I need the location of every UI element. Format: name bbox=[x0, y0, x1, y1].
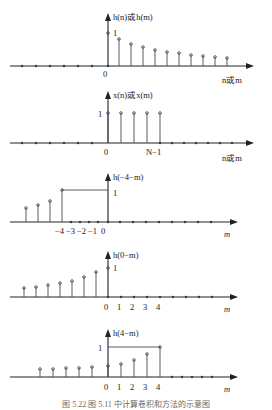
x-axis-arrowhead bbox=[246, 140, 254, 146]
tick-label-0: 0 bbox=[103, 69, 107, 79]
tick-label-0: 0 bbox=[104, 382, 108, 392]
y-axis-arrowhead bbox=[105, 329, 111, 337]
tick-label-3: 3 bbox=[143, 382, 147, 392]
unit-label: 1 bbox=[98, 343, 102, 353]
x-axis-label: m bbox=[224, 384, 230, 394]
unit-label: 1 bbox=[113, 188, 117, 198]
tick-label-minus1: −1 bbox=[88, 226, 97, 236]
x-axis-label: n或m bbox=[222, 75, 242, 85]
x-axis-arrowhead bbox=[230, 219, 238, 225]
tick-label-1: 1 bbox=[117, 382, 121, 392]
panel-title: h(4−m) bbox=[113, 328, 139, 338]
tick-label-2: 2 bbox=[130, 302, 134, 312]
tick-label-4: 4 bbox=[156, 302, 161, 312]
stem-series-right bbox=[107, 353, 149, 377]
unit-label: 1 bbox=[113, 28, 117, 38]
tick-label-0: 0 bbox=[101, 226, 105, 236]
stem-series bbox=[118, 38, 229, 66]
x-axis-arrowhead bbox=[246, 63, 254, 69]
tick-label-minus4: −4 bbox=[55, 226, 65, 236]
panel-title: h(0−m) bbox=[113, 250, 139, 260]
x-axis-label: m bbox=[224, 229, 230, 239]
panel-x-n-or-x-m: x(n)或x(m) 1 bbox=[10, 90, 254, 163]
tick-label-4: 4 bbox=[156, 382, 161, 392]
panel-h-minus4-minus-m: h(−4−m) 1 bbox=[10, 172, 238, 239]
tick-label-0: 0 bbox=[104, 147, 108, 157]
figure-container: h(n)或h(m) 1 0 bbox=[0, 0, 272, 410]
tick-label-1: 1 bbox=[117, 302, 121, 312]
x-axis-label: m bbox=[224, 304, 230, 314]
unit-label: 1 bbox=[98, 109, 102, 119]
tick-label-N-1: N−1 bbox=[146, 147, 161, 157]
tick-label-2: 2 bbox=[130, 382, 134, 392]
figure-caption: 图 5.22 图 5.11 中计算卷积和方法的示意图 bbox=[0, 400, 272, 410]
y-axis-arrowhead bbox=[105, 173, 111, 181]
convolution-figure-svg: h(n)或h(m) 1 0 bbox=[0, 0, 272, 398]
panel-title: x(n)或x(m) bbox=[113, 90, 153, 100]
stem-series bbox=[107, 112, 162, 143]
stem-series bbox=[25, 200, 52, 222]
y-axis-arrowhead bbox=[105, 91, 111, 99]
tick-label-minus3: −3 bbox=[66, 226, 75, 236]
stem-series-left bbox=[39, 366, 94, 377]
x-axis-arrowhead bbox=[230, 374, 238, 380]
x-axis-arrowhead bbox=[230, 294, 238, 300]
x-axis-label: n或m bbox=[222, 153, 242, 163]
panel-title: h(n)或h(m) bbox=[113, 12, 153, 22]
panel-title: h(−4−m) bbox=[113, 172, 144, 182]
y-axis-arrowhead bbox=[105, 251, 111, 259]
tick-label-3: 3 bbox=[143, 302, 147, 312]
tick-label-0: 0 bbox=[104, 302, 108, 312]
stem-series bbox=[23, 271, 98, 297]
panel-h-4-minus-m: h(4−m) 1 bbox=[10, 328, 238, 394]
unit-label: 1 bbox=[113, 263, 117, 273]
tick-label-minus2: −2 bbox=[77, 226, 86, 236]
panel-h-n-or-h-m: h(n)或h(m) 1 0 bbox=[10, 12, 254, 85]
y-axis-arrowhead bbox=[105, 13, 111, 21]
panel-h-0-minus-m: h(0−m) 1 bbox=[10, 250, 238, 314]
